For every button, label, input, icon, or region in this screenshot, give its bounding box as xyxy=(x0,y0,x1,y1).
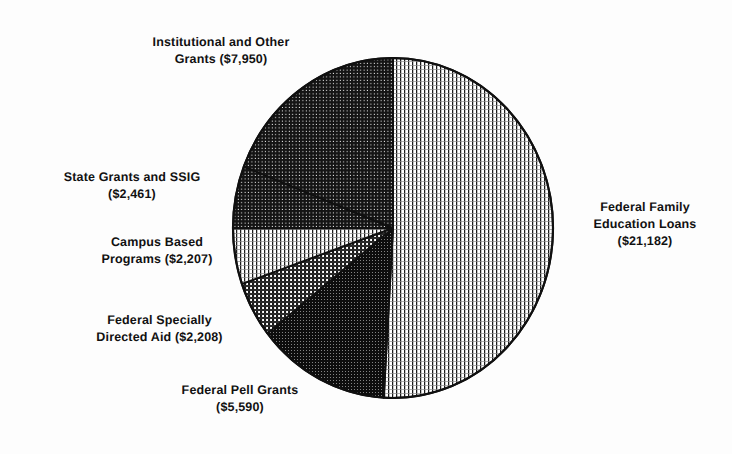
pie-chart-graphic xyxy=(232,57,554,399)
pie-chart-figure: Institutional and Other Grants ($7,950) … xyxy=(0,0,732,454)
pie-slices xyxy=(233,58,553,398)
pie-slice[interactable] xyxy=(384,58,553,398)
label-federal-family-education-loans: Federal Family Education Loans ($21,182) xyxy=(569,199,721,250)
label-campus-based-programs: Campus Based Programs ($2,207) xyxy=(62,234,252,268)
label-federal-pell-grants: Federal Pell Grants ($5,590) xyxy=(140,382,340,416)
pie-svg xyxy=(232,57,554,399)
label-state-grants-and-ssig: State Grants and SSIG ($2,461) xyxy=(22,169,242,203)
label-institutional-and-other-grants: Institutional and Other Grants ($7,950) xyxy=(96,34,346,68)
label-federal-specially-directed-aid: Federal Specially Directed Aid ($2,208) xyxy=(62,312,257,346)
